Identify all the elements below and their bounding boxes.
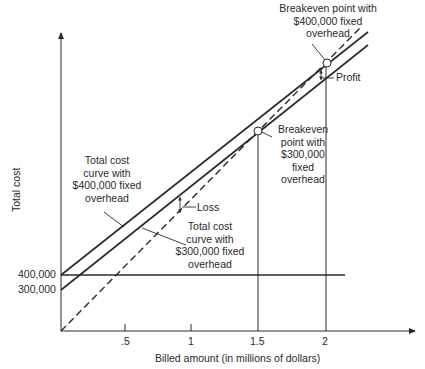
breakeven-400k-marker <box>323 59 331 67</box>
curve-300k-label: Total cost curve with $300,000 fixed ove… <box>170 220 250 270</box>
x-tick-label-1: 1 <box>188 335 194 347</box>
breakeven-chart <box>0 0 425 369</box>
label-line: overhead <box>170 258 250 271</box>
x-tick-label-2: 2 <box>322 335 328 347</box>
breakeven-400k-label: Breakeven point with $400,000 fixed over… <box>262 2 394 40</box>
label-line: overhead <box>68 192 146 205</box>
label-line: $400,000 fixed <box>68 179 146 192</box>
breakeven-300k-marker <box>254 127 262 135</box>
x-tick-label-1.5: 1.5 <box>250 335 265 347</box>
breakeven-300k-label: Breakeven point with $300,000 fixed over… <box>270 123 336 186</box>
profit-label: Profit <box>336 71 361 83</box>
label-line: Breakeven point with <box>262 2 394 15</box>
y-axis-label: Total cost <box>10 168 22 212</box>
leader-breakeven-400k <box>312 44 325 60</box>
leader-curve-400k <box>104 212 124 227</box>
label-line: Total cost <box>68 154 146 167</box>
curve-400k-label: Total cost curve with $400,000 fixed ove… <box>68 154 146 204</box>
label-line: Total cost <box>170 220 250 233</box>
label-line: curve with <box>68 167 146 180</box>
y-tick-400000: 400,000 <box>18 268 56 280</box>
label-line: $300,000 fixed <box>170 245 250 258</box>
loss-label: Loss <box>197 201 219 213</box>
label-line: Breakeven <box>270 123 336 136</box>
label-line: curve with <box>170 233 250 246</box>
label-line: overhead <box>262 27 394 40</box>
label-line: overhead <box>270 173 336 186</box>
x-tick-label-0.5: .5 <box>121 335 130 347</box>
label-line: point with <box>270 136 336 149</box>
label-line: $300,000 <box>270 148 336 161</box>
x-axis-label: Billed amount (in millions of dollars) <box>155 352 320 364</box>
label-line: fixed <box>270 161 336 174</box>
label-line: $400,000 fixed <box>262 15 394 28</box>
y-tick-300000: 300,000 <box>18 283 56 295</box>
